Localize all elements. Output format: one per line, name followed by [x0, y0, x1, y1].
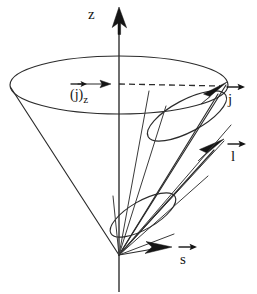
z-axis-label: z — [88, 7, 95, 22]
l-vector-arrow — [119, 139, 224, 255]
l-arrow-shaft — [119, 150, 214, 255]
vector-coupling-figure: z (j)z j l s — [0, 0, 257, 294]
figure-canvas — [0, 0, 257, 294]
j-label-text: j — [228, 91, 232, 107]
j-projection-dashed-line — [119, 84, 220, 86]
z-axis-arrowhead-icon — [112, 7, 126, 35]
jz-label-base: (j) — [70, 87, 83, 102]
l-cone-mouth-ellipse — [141, 81, 234, 151]
s-arrowhead-icon — [145, 242, 172, 254]
l-precession-cone — [119, 81, 233, 255]
l-label-text: l — [231, 148, 235, 164]
jz-label: (j)z — [70, 88, 88, 105]
s-label-text: s — [180, 251, 186, 267]
cone-generator-fan — [119, 106, 231, 255]
generator-line-3 — [119, 176, 208, 255]
large-cone-left-edge — [10, 87, 119, 255]
l-label: l — [231, 149, 235, 164]
s-label: s — [180, 252, 186, 267]
j-label: j — [228, 92, 232, 107]
generator-line-2 — [119, 125, 231, 255]
l-arrowhead-icon — [198, 139, 224, 161]
jz-label-subscript: z — [83, 93, 88, 105]
